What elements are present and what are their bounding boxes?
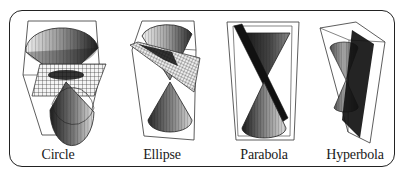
label-ellipse: Ellipse: [143, 147, 180, 163]
label-parabola: Parabola: [240, 147, 287, 163]
label-hyperbola: Hyperbola: [326, 147, 383, 163]
label-circle: Circle: [41, 147, 74, 163]
